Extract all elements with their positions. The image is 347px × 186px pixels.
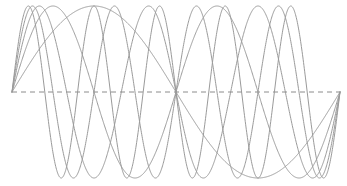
plot-canvas <box>0 0 347 186</box>
chart-figure <box>0 0 347 186</box>
